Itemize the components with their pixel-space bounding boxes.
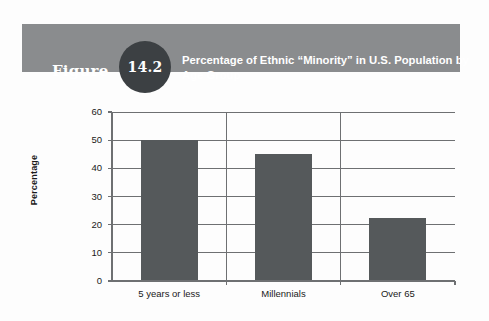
figure-title: Percentage of Ethnic “Minority” in U.S. … bbox=[182, 53, 474, 82]
x-tick-label-0: 5 years or less bbox=[112, 288, 226, 299]
y-tick-label-30: 30 bbox=[76, 191, 102, 202]
figure-header-band: Figure 14.2 Percentage of Ethnic “Minori… bbox=[22, 24, 460, 72]
y-tick-label-0: 0 bbox=[76, 275, 102, 286]
y-tick-label-50: 50 bbox=[76, 134, 102, 145]
chart-container: Percentage 0102030405060 5 years or less… bbox=[0, 95, 489, 310]
x-tick-label-2: Over 65 bbox=[341, 288, 455, 299]
y-tick-label-40: 40 bbox=[76, 162, 102, 173]
figure-label: Figure bbox=[52, 62, 108, 80]
y-tick-label-20: 20 bbox=[76, 219, 102, 230]
y-tick-label-60: 60 bbox=[76, 106, 102, 117]
figure-number-badge: 14.2 bbox=[119, 41, 171, 93]
y-tick-label-10: 10 bbox=[76, 247, 102, 258]
bar-2 bbox=[369, 218, 426, 281]
figure-number-text: 14.2 bbox=[128, 59, 163, 75]
figure-root: Figure 14.2 Percentage of Ethnic “Minori… bbox=[0, 0, 489, 321]
bars-layer bbox=[141, 140, 427, 281]
x-tick-label-1: Millennials bbox=[226, 288, 340, 299]
bar-0 bbox=[141, 140, 198, 281]
bar-1 bbox=[255, 154, 312, 281]
bar-chart-plot bbox=[0, 95, 489, 310]
